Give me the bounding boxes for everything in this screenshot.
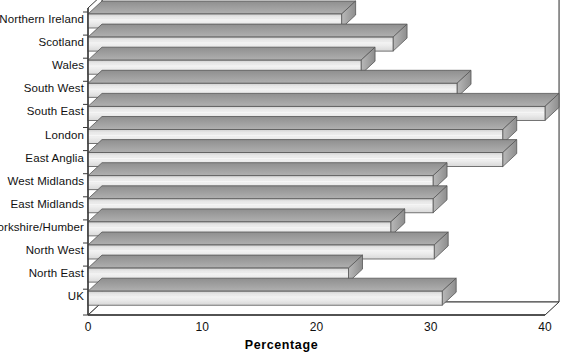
x-axis-title: Percentage <box>0 338 563 352</box>
chart-plot-area <box>0 0 563 360</box>
x-tick-label-40: 40 <box>538 320 551 334</box>
chart-container: Northern IrelandScotlandWalesSouth WestS… <box>0 0 563 360</box>
x-tick-label-30: 30 <box>424 320 437 334</box>
bar-12 <box>88 278 456 305</box>
x-tick-label-0: 0 <box>85 320 92 334</box>
x-tick-label-20: 20 <box>310 320 323 334</box>
x-tick-label-10: 10 <box>196 320 209 334</box>
